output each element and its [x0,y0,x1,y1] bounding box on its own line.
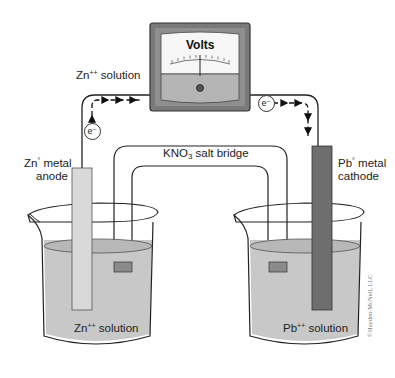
label-salt-bridge: KNO3 salt bridge [163,148,249,161]
electron-badge-right: e⁻ [258,95,275,112]
label-anode-metal: Zn° metal [24,157,68,170]
label-left-beaker-solution: Zn++ solution [74,322,138,335]
electron-flow-arrows-right [273,100,311,136]
label-cathode: cathode [338,171,379,183]
copyright-notice: ©Hayden-McNeil, LLC [366,274,373,337]
voltmeter [150,23,250,111]
pb-electrode [312,146,332,310]
meter-pivot [197,85,204,92]
electron-badge-left: e⁻ [84,123,101,140]
meter-label: Volts [186,38,214,52]
label-right-beaker-solution: Pb++ solution [283,322,348,335]
label-anode: anode [24,171,68,183]
salt-plug-left [114,262,132,272]
salt-plug-right [269,262,287,272]
electron-flow-arrows-left [89,97,140,124]
label-cathode-metal: Pb° metal [338,157,386,170]
zn-electrode [72,168,92,310]
label-top-zn-solution: Zn++ solution [76,69,140,82]
